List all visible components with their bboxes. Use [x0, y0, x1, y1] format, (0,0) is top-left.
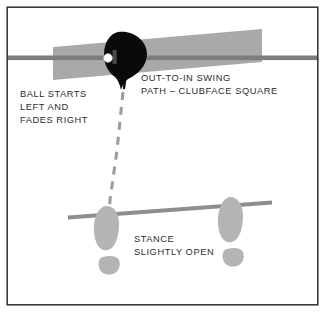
left-foot-heel: [99, 256, 120, 275]
golf-swing-diagram: BALL STARTS LEFT AND FADES RIGHT OUT-TO-…: [0, 0, 325, 312]
swing-path-label-line1: OUT-TO-IN SWING: [141, 73, 231, 83]
ball-flight-label-line2: LEFT AND: [20, 102, 69, 112]
ball-flight-label-line1: BALL STARTS: [20, 89, 87, 99]
clubface-plate: [113, 50, 117, 64]
diagram-canvas: BALL STARTS LEFT AND FADES RIGHT OUT-TO-…: [0, 0, 325, 312]
ball-flight-label-line3: FADES RIGHT: [20, 115, 88, 125]
stance-label-line2: SLIGHTLY OPEN: [134, 247, 214, 257]
right-foot-heel: [223, 248, 244, 267]
golf-ball: [104, 54, 113, 63]
swing-path-label-line2: PATH – CLUBFACE SQUARE: [141, 86, 278, 96]
target-line: [8, 56, 317, 61]
stance-label-line1: STANCE: [134, 234, 174, 244]
